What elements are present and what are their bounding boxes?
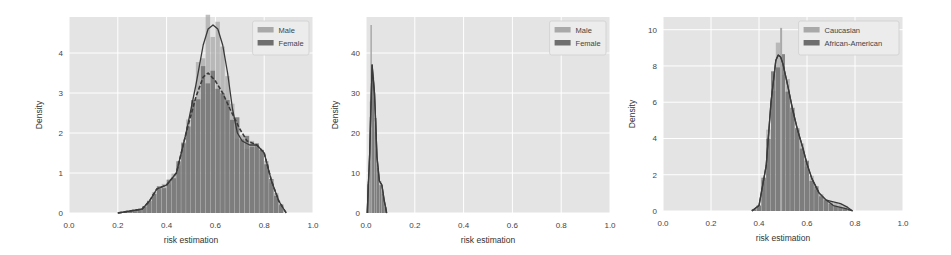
histogram-bar (259, 150, 263, 213)
y-tick-label: 10 (351, 169, 360, 178)
histogram-bar (186, 126, 190, 213)
x-axis-label: risk estimation (164, 235, 219, 245)
legend: CaucasianAfrican-American (799, 21, 899, 55)
histogram-bar (171, 178, 175, 213)
y-axis-label: Density (627, 99, 637, 128)
histogram-bar (379, 185, 381, 213)
chart-panel-1: 0.00.20.40.60.81.001234risk estimationDe… (34, 15, 319, 245)
histogram-bar (220, 93, 224, 213)
histogram-spike (780, 28, 782, 211)
histogram-bar (800, 149, 804, 211)
histogram-bar (215, 89, 219, 213)
histogram-bar (201, 66, 205, 213)
y-tick-label: 4 (653, 134, 658, 143)
y-tick-label: 6 (653, 98, 658, 107)
legend-label-1: Female (279, 39, 304, 48)
y-tick-label: 10 (648, 26, 657, 35)
legend-label-1: Female (576, 39, 601, 48)
legend-swatch-0 (258, 27, 274, 33)
legend-label-0: Caucasian (825, 26, 860, 35)
histogram-bar (162, 188, 166, 213)
legend: MaleFemale (550, 21, 606, 55)
y-tick-label: 2 (653, 171, 658, 180)
legend-label-0: Male (576, 26, 592, 35)
y-tick-label: 1 (59, 169, 64, 178)
legend-label-0: Male (279, 26, 295, 35)
histogram-bar (790, 108, 794, 211)
y-tick-label: 0 (59, 209, 64, 218)
legend-swatch-1 (804, 40, 820, 46)
x-axis-label: risk estimation (461, 235, 516, 245)
histogram-bar (245, 136, 249, 213)
x-tick-label: 1.0 (604, 221, 616, 230)
x-tick-label: 0.6 (507, 221, 519, 230)
histogram-bar (372, 77, 374, 213)
histogram-bar (254, 143, 258, 213)
x-tick-label: 0.6 (801, 219, 813, 228)
x-tick-label: 0.8 (556, 221, 568, 230)
x-tick-label: 0.0 (657, 219, 669, 228)
x-tick-label: 0.0 (63, 221, 75, 230)
histogram-bar (785, 92, 789, 211)
x-tick-label: 0.4 (753, 219, 765, 228)
x-tick-label: 0.2 (112, 221, 124, 230)
y-tick-label: 0 (653, 207, 658, 216)
legend-swatch-1 (258, 40, 274, 46)
x-tick-label: 0.8 (849, 219, 861, 228)
y-axis-label: Density (34, 100, 44, 129)
x-tick-label: 0.8 (259, 221, 271, 230)
x-tick-label: 1.0 (897, 219, 909, 228)
x-axis-label: risk estimation (756, 233, 811, 243)
histogram-bar (206, 83, 210, 213)
x-tick-label: 0.4 (458, 221, 470, 230)
histogram-bar (264, 164, 268, 213)
y-tick-label: 3 (59, 89, 64, 98)
x-tick-label: 0.2 (409, 221, 421, 230)
y-tick-label: 4 (59, 49, 64, 58)
y-tick-label: 8 (653, 62, 658, 71)
y-axis-label: Density (330, 100, 340, 129)
histogram-bar (157, 186, 161, 213)
legend-swatch-0 (804, 27, 820, 33)
histogram-bar (809, 181, 813, 211)
histogram-bar (196, 99, 200, 213)
legend-label-1: African-American (825, 39, 883, 48)
histogram-bar (225, 100, 229, 213)
x-tick-label: 0.2 (705, 219, 717, 228)
chart-panel-3: 0.00.20.40.60.81.00246810risk estimation… (627, 17, 909, 243)
x-tick-label: 0.6 (210, 221, 222, 230)
histogram-bar (795, 128, 799, 211)
histogram-bar (240, 139, 244, 213)
y-tick-label: 2 (59, 129, 64, 138)
y-tick-label: 40 (351, 49, 360, 58)
y-tick-label: 30 (351, 89, 360, 98)
histogram-bar (819, 196, 823, 211)
x-tick-label: 0.0 (360, 221, 372, 230)
legend: MaleFemale (253, 21, 309, 55)
histogram-bar (250, 147, 254, 213)
y-tick-label: 0 (356, 209, 361, 218)
histogram-bar (181, 143, 185, 213)
legend-swatch-1 (555, 40, 571, 46)
histogram-bar (211, 71, 215, 213)
y-tick-label: 20 (351, 129, 360, 138)
chart-panel-2: 0.00.20.40.60.81.0010203040risk estimati… (330, 17, 616, 245)
histogram-bar (230, 120, 234, 213)
x-tick-label: 0.4 (161, 221, 173, 230)
figure: 0.00.20.40.60.81.001234risk estimationDe… (0, 0, 951, 255)
x-tick-label: 1.0 (307, 221, 319, 230)
histogram-bar (191, 100, 195, 213)
legend-swatch-0 (555, 27, 571, 33)
histogram-bar (776, 67, 780, 211)
